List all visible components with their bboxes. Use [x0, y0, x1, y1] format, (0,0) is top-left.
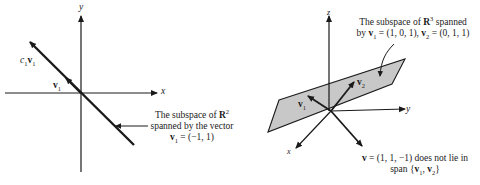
- caption-line-2: by v1 = (1, 0, 1), v2 = (0, 1, 1): [343, 28, 480, 39]
- caption-line-3: v1 = (−1, 1): [142, 132, 242, 143]
- v-sub: 1: [303, 104, 306, 111]
- v1-vector: [66, 78, 81, 93]
- y-axis: [331, 109, 405, 111]
- R-symbol: R: [219, 110, 226, 120]
- brace-close: }: [435, 164, 440, 174]
- c1v1-label: c1v1: [20, 55, 35, 66]
- v2-value: = (0, 1, 1): [429, 28, 469, 38]
- v1-label: v1: [298, 99, 306, 110]
- x-axis-label: x: [287, 146, 291, 157]
- r3-subspace-caption: The subspace of R3 spanned by v1 = (1, 0…: [343, 17, 480, 39]
- caption-line-1: v = (1, 1, −1) does not lie in: [350, 153, 480, 164]
- v1-label: v1: [53, 80, 61, 91]
- z-axis-label: z: [327, 7, 330, 18]
- caption-text: by: [357, 28, 369, 38]
- v-sub: 2: [362, 82, 365, 89]
- v-sub: 1: [58, 85, 61, 92]
- caption-line-1: The subspace of R2: [142, 110, 242, 121]
- caption-text: span {: [390, 164, 414, 174]
- caption-text: The subspace of: [155, 110, 219, 120]
- v-not-in-span-caption: v = (1, 1, −1) does not lie in span {v1,…: [350, 153, 480, 175]
- v1-value: = (1, 0, 1),: [376, 28, 421, 38]
- vector-value: = (−1, 1): [178, 132, 214, 142]
- r2-subspace-caption: The subspace of R2 spanned by the vector…: [142, 110, 242, 143]
- v-vector: [331, 111, 362, 146]
- caption-line-1: The subspace of R3 spanned: [343, 17, 480, 28]
- x-axis-label: x: [161, 86, 165, 97]
- caption-text: The subspace of: [359, 17, 423, 27]
- subspace-plane: [268, 59, 405, 132]
- v-sub: 1: [32, 60, 35, 67]
- dim-sup: 2: [226, 108, 229, 115]
- caption-text: = (1, 1, −1) does not lie in: [367, 153, 468, 163]
- caption-line-2: span {v1, v2}: [350, 164, 480, 175]
- left-diagram: [5, 16, 157, 172]
- caption-line-2: spanned by the vector: [142, 121, 242, 132]
- v2-label: v2: [357, 77, 365, 88]
- y-axis-label: y: [406, 104, 410, 115]
- caption-text: spanned: [433, 17, 467, 27]
- y-axis-label: y: [79, 2, 83, 13]
